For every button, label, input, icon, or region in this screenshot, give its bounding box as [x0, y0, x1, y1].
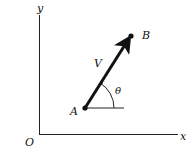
vector-v [85, 40, 128, 108]
angle-label: θ [115, 85, 121, 96]
x-axis-label: x [180, 130, 187, 143]
angle-arc [100, 83, 114, 108]
point-b [128, 33, 133, 38]
point-b-label: B [141, 29, 150, 42]
origin-label: O [25, 136, 34, 149]
vector-label: V [94, 57, 103, 70]
point-a [82, 105, 87, 110]
diagram-canvas: y x O A B V θ [0, 0, 188, 152]
y-axis-label: y [36, 2, 44, 15]
point-a-label: A [69, 105, 78, 118]
